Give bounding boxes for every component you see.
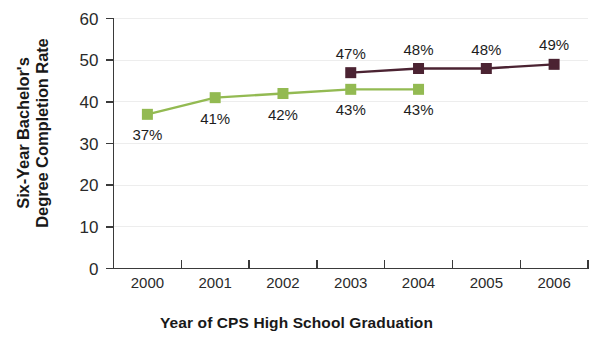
y-tick-label: 50: [80, 51, 99, 70]
data-point-marker: [210, 92, 221, 103]
data-point-label: 37%: [132, 126, 162, 143]
x-tick-label: 2001: [198, 274, 231, 291]
data-point-label: 48%: [404, 41, 434, 58]
data-point-marker: [142, 109, 153, 120]
x-tick-label: 2000: [131, 274, 164, 291]
data-point-marker: [413, 63, 424, 74]
data-point-marker: [481, 63, 492, 74]
y-tick-label: 40: [80, 93, 99, 112]
data-point-label: 43%: [336, 101, 366, 118]
y-tick-label: 10: [80, 218, 99, 237]
x-tick-label: 2002: [266, 274, 299, 291]
data-point-label: 49%: [539, 36, 569, 53]
x-axis-title: Year of CPS High School Graduation: [0, 314, 593, 332]
x-tick-label: 2005: [470, 274, 503, 291]
data-point-label: 42%: [268, 106, 298, 123]
plot-area: 0102030405060200020012002200320042005200…: [0, 0, 593, 310]
data-point-label: 41%: [200, 110, 230, 127]
x-tick-label: 2004: [402, 274, 435, 291]
series-line-maroon-series: [351, 64, 554, 72]
y-tick-label: 20: [80, 176, 99, 195]
y-tick-label: 0: [89, 260, 98, 279]
data-point-marker: [277, 88, 288, 99]
y-tick-label: 60: [80, 10, 99, 29]
x-tick-label: 2003: [334, 274, 367, 291]
x-tick-label: 2006: [537, 274, 570, 291]
y-tick-label: 30: [80, 135, 99, 154]
data-point-label: 43%: [404, 101, 434, 118]
data-point-marker: [345, 84, 356, 95]
data-point-marker: [549, 59, 560, 70]
chart-figure: Six-Year Bachelor's Degree Completion Ra…: [0, 0, 593, 340]
data-point-marker: [345, 67, 356, 78]
data-point-marker: [413, 84, 424, 95]
data-point-label: 48%: [471, 41, 501, 58]
data-point-label: 47%: [336, 45, 366, 62]
